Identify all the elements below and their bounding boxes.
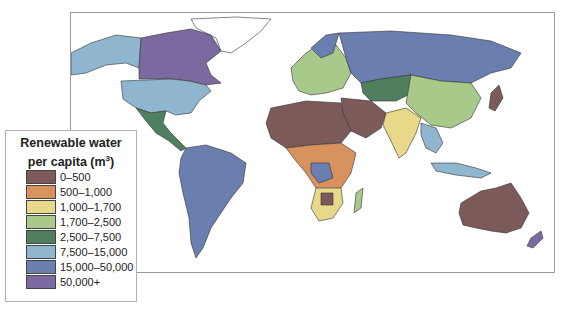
- legend-items: 0–500 500–1,000 1,000–1,700 1,700–2,500 …: [26, 169, 133, 289]
- legend: Renewable water per capita (m3) 0–500 50…: [5, 130, 137, 302]
- legend-swatch: [26, 200, 56, 214]
- world-map: [70, 12, 555, 273]
- legend-swatch: [26, 245, 56, 259]
- legend-item: 7,500–15,000: [26, 244, 133, 259]
- legend-title-line2: per capita (m3): [6, 151, 136, 170]
- region-russia: [339, 31, 521, 83]
- region-north-africa: [266, 101, 351, 148]
- legend-swatch: [26, 230, 56, 244]
- legend-label: 500–1,000: [60, 186, 112, 198]
- legend-swatch: [26, 260, 56, 274]
- region-alaska: [71, 35, 141, 75]
- region-new-zealand: [527, 231, 543, 248]
- region-botswana: [321, 193, 333, 205]
- legend-item: 1,700–2,500: [26, 214, 133, 229]
- legend-label: 1,700–2,500: [60, 216, 121, 228]
- legend-item: 0–500: [26, 169, 133, 184]
- region-japan: [489, 85, 503, 111]
- world-map-svg: [71, 13, 555, 273]
- legend-item: 500–1,000: [26, 184, 133, 199]
- region-se-asia: [421, 123, 443, 153]
- legend-label: 1,000–1,700: [60, 201, 121, 213]
- legend-swatch: [26, 185, 56, 199]
- legend-item: 15,000–50,000: [26, 259, 133, 274]
- region-usa: [121, 79, 211, 115]
- legend-label: 2,500–7,500: [60, 231, 121, 243]
- legend-label: 15,000–50,000: [60, 261, 133, 273]
- legend-swatch: [26, 215, 56, 229]
- legend-item: 2,500–7,500: [26, 229, 133, 244]
- region-indonesia: [431, 163, 491, 178]
- region-australia: [459, 183, 529, 233]
- legend-swatch: [26, 170, 56, 184]
- region-india: [383, 108, 421, 158]
- legend-swatch: [26, 275, 56, 289]
- legend-item: 50,000+: [26, 274, 133, 289]
- region-south-america: [179, 145, 246, 258]
- region-madagascar: [354, 188, 363, 213]
- region-canada: [139, 29, 221, 85]
- legend-label: 50,000+: [60, 276, 100, 288]
- legend-title: Renewable water per capita (m3): [6, 136, 136, 170]
- legend-label: 0–500: [60, 171, 91, 183]
- legend-label: 7,500–15,000: [60, 246, 127, 258]
- legend-title-line1: Renewable water: [6, 136, 136, 151]
- legend-item: 1,000–1,700: [26, 199, 133, 214]
